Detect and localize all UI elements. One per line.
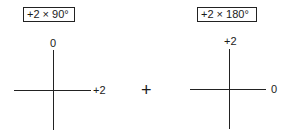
diagram-right-horizontal-axis [190,89,266,90]
diagram-left-top-label: 0 [50,37,56,49]
diagram-right-right-label: 0 [271,83,277,95]
diagram-left-horizontal-axis [14,90,91,91]
diagram-right-title-box: +2 × 180° [197,7,257,22]
diagram-left-right-label: +2 [93,84,106,96]
diagram-right-top-label: +2 [224,35,237,47]
plus-operator: + [141,81,152,99]
diagram-left-title-box: +2 × 90° [23,7,75,22]
